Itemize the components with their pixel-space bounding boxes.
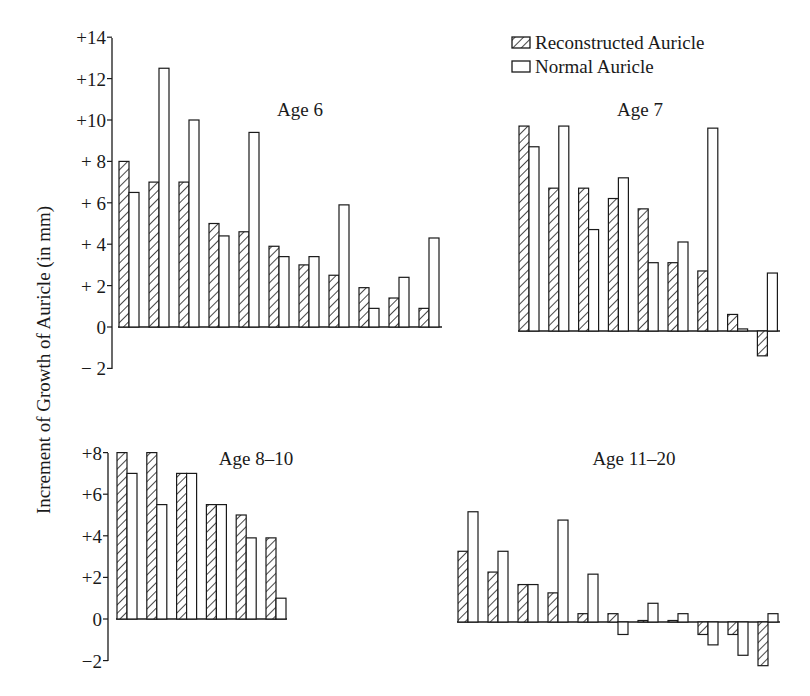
bar-normal: [159, 68, 169, 327]
bar-normal: [618, 622, 628, 634]
bar-reconstructed: [329, 275, 339, 327]
panel-age-11-20: Age 11–20: [457, 448, 780, 666]
bar-reconstructed: [668, 263, 678, 331]
y-tick-label: + 4: [81, 234, 106, 255]
legend: Reconstructed Auricle Normal Auricle: [512, 32, 704, 77]
legend-item-reconstructed: Reconstructed Auricle: [512, 32, 704, 53]
bar-normal: [708, 128, 718, 331]
bar-reconstructed: [519, 126, 529, 331]
bar-reconstructed: [728, 622, 738, 634]
legend-label-normal: Normal Auricle: [535, 56, 654, 77]
bar-reconstructed: [579, 188, 589, 331]
bar-reconstructed: [419, 308, 429, 327]
bar-reconstructed: [488, 572, 498, 622]
bar-normal: [127, 473, 137, 619]
bar-reconstructed: [147, 453, 157, 619]
bar-reconstructed: [518, 585, 528, 622]
bar-reconstructed: [549, 188, 559, 331]
bar-reconstructed: [299, 265, 309, 327]
bar-reconstructed: [239, 232, 249, 327]
y-tick-label: +6: [82, 484, 102, 505]
bar-reconstructed: [638, 621, 648, 623]
bar-normal: [468, 512, 478, 622]
bar-reconstructed: [389, 298, 399, 327]
bar-normal: [589, 230, 599, 331]
y-tick-label: +14: [76, 27, 106, 48]
bar-normal: [648, 263, 658, 331]
bar-normal: [219, 236, 229, 327]
bar-reconstructed: [177, 473, 187, 619]
bar-reconstructed: [209, 224, 219, 328]
panel-age-7: Age 7: [518, 99, 780, 356]
bar-normal: [279, 257, 289, 327]
bar-group: [519, 126, 777, 356]
bar-normal: [768, 614, 778, 622]
bar-normal: [246, 538, 256, 619]
bar-normal: [309, 257, 319, 327]
bar-reconstructed: [269, 246, 279, 327]
bar-normal: [369, 308, 379, 327]
figure: Increment of Growth of Auricle (in mm) R…: [0, 0, 810, 696]
open-swatch-icon: [512, 61, 530, 72]
bar-normal: [529, 147, 539, 331]
bar-reconstructed: [578, 614, 588, 622]
bar-reconstructed: [698, 271, 708, 331]
legend-label-reconstructed: Reconstructed Auricle: [535, 32, 704, 53]
y-tick-label: 0: [93, 609, 103, 630]
y-tick-label: − 2: [81, 358, 106, 379]
bar-reconstructed: [236, 515, 246, 619]
bar-normal: [738, 329, 748, 331]
panel-age-6: Age 6 +14+12+10+ 8+ 6+ 4+ 20− 2: [76, 27, 442, 379]
bar-reconstructed: [728, 314, 738, 331]
y-tick-label: + 8: [81, 151, 106, 172]
bar-normal: [216, 505, 226, 619]
bar-reconstructed: [359, 288, 369, 327]
panel-title: Age 7: [617, 99, 663, 120]
bar-reconstructed: [149, 182, 159, 327]
bar-reconstructed: [117, 453, 127, 619]
bar-normal: [559, 126, 569, 331]
bar-normal: [738, 622, 748, 655]
bar-reconstructed: [608, 614, 618, 622]
bar-reconstructed: [668, 621, 678, 623]
panel-title: Age 6: [277, 99, 323, 120]
bar-reconstructed: [757, 331, 767, 356]
bar-reconstructed: [119, 161, 129, 327]
bar-normal: [767, 273, 777, 331]
bar-normal: [528, 585, 538, 622]
bar-normal: [429, 238, 439, 327]
bar-normal: [129, 192, 139, 327]
bar-group: [117, 453, 286, 619]
panel-age-8-10: Age 8–10 +8+6+4+20−2: [82, 443, 293, 672]
bar-normal: [187, 473, 197, 619]
bar-reconstructed: [758, 622, 768, 666]
bar-normal: [618, 178, 628, 331]
bar-normal: [339, 205, 349, 327]
bar-normal: [648, 603, 658, 622]
bar-reconstructed: [266, 538, 276, 619]
panel-title: Age 11–20: [592, 448, 675, 469]
y-tick-label: 0: [97, 317, 107, 338]
hatched-swatch-icon: [512, 37, 530, 48]
y-tick-label: +2: [82, 567, 102, 588]
bar-reconstructed: [548, 593, 558, 622]
bar-reconstructed: [179, 182, 189, 327]
bar-group: [458, 512, 778, 666]
y-axis-label: Increment of Growth of Auricle (in mm): [33, 206, 55, 514]
bar-normal: [558, 520, 568, 622]
bar-normal: [399, 277, 409, 327]
bar-reconstructed: [608, 199, 618, 331]
panel-title: Age 8–10: [219, 448, 293, 469]
y-tick-label: +8: [82, 443, 102, 464]
y-tick-label: +12: [76, 69, 106, 90]
bar-reconstructed: [206, 505, 216, 619]
y-tick-label: −2: [82, 651, 102, 672]
legend-item-normal: Normal Auricle: [512, 56, 654, 77]
bar-reconstructed: [458, 551, 468, 622]
y-tick-label: +4: [82, 526, 103, 547]
bar-reconstructed: [638, 209, 648, 331]
bar-normal: [189, 120, 199, 327]
y-tick-label: +10: [76, 110, 106, 131]
bar-normal: [276, 598, 286, 619]
bar-normal: [498, 551, 508, 622]
